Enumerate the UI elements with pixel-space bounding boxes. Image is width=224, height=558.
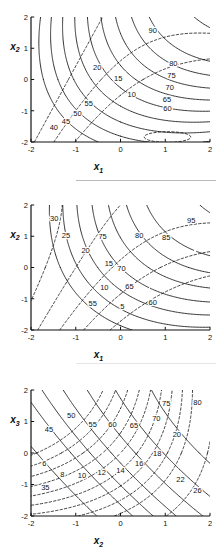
panel-2-xaxis-title: x1: [93, 349, 104, 362]
panel-1-objective-contours-label-0: 40: [50, 123, 58, 132]
panel-3-objective-contours-label-2: 50: [67, 411, 75, 420]
panel-3-yticklabel-1: -1: [21, 480, 28, 489]
panel-3-constraint-contours-label-6: 18: [153, 449, 161, 458]
panel-3-constraint-contours-level-18: [121, 453, 153, 486]
panel-1-plot-area: -2-1012-2-1012x1x24040454550505555606065…: [9, 13, 212, 174]
panel-3-xticklabel-0: -2: [28, 519, 35, 528]
panel-2-constraint-contours-level-20: [49, 269, 75, 312]
panel-2-xticklabel-2: 0: [118, 333, 122, 342]
panel-3-objective-contours-label-7: 75: [162, 399, 170, 408]
panel-3-yaxis-title: x3: [9, 414, 20, 427]
panel-2-constraint-contours-label-4: 25: [62, 231, 70, 240]
panel-2-objective-contours-label-7: 95: [187, 216, 195, 225]
panel-2-xticklabel-1: -1: [72, 333, 79, 342]
panel-2-yticklabel-3: 1: [24, 232, 28, 241]
panel-3-objective-contours-label-3: 55: [89, 420, 97, 429]
panel-2-svg: -2-1012-2-1012x1x25555606065657070757580…: [0, 185, 224, 370]
panel-3-yticklabel-4: 2: [24, 386, 28, 395]
panel-2-objective-contours-label-4: 75: [98, 232, 106, 241]
panel-2-xticklabel-3: 1: [163, 333, 167, 342]
panel-3-constraint-contours-label-0: 6: [42, 459, 46, 468]
panel-1-xaxis-title: x1: [93, 161, 104, 174]
panel-3-constraint-contours-label-2: 10: [78, 471, 86, 480]
panel-2-constraint-contours-label-0: 5: [120, 302, 124, 311]
panel-3-objective-contours-label-4: 60: [108, 420, 116, 429]
panel-2-xticklabel-0: -2: [28, 333, 35, 342]
panel-3-objective-contours-level-55: [121, 463, 177, 516]
panel-3-plot-area: -2-1012-2-1012x2x33535454550505555606065…: [9, 386, 212, 548]
panel-1-objective-contours-level-55: [75, 17, 92, 80]
panel-1-objective-contours-label-6: 70: [166, 83, 174, 92]
panel-1-constraint-contours-label-0: 10: [128, 90, 136, 99]
panel-1-objective-contours-level-55: [91, 80, 120, 107]
panel-1-objective-contours-label-1: 45: [62, 117, 70, 126]
panel-1-constraint-contours-level-15: [121, 33, 211, 61]
panel-2-xticklabel-4: 2: [208, 333, 212, 342]
panel-3-objective-contours-label-0: 35: [41, 483, 49, 492]
panel-1-objective-contours-label-8: 80: [169, 59, 177, 68]
panel-2-constraint-contours-level-25: [31, 268, 45, 301]
figure-sheet: -2-1012-2-1012x1x24040454550505555606065…: [0, 0, 224, 558]
panel-1-yticklabel-3: 1: [24, 44, 28, 53]
panel-1-yticklabel-2: 0: [24, 75, 28, 84]
panel-1-yticklabel-4: 2: [24, 13, 28, 22]
panel-3-constraint-contours-label-1: 8: [60, 470, 64, 479]
panel-2-objective-contours-label-0: 55: [89, 299, 97, 308]
panel-3-constraint-contours-label-7: 20: [173, 430, 181, 439]
panel-1-objective-contours-level-45: [51, 17, 58, 80]
panel-2-constraint-contours-label-5: 30: [50, 214, 58, 223]
panel-1-xticklabel-1: -1: [72, 145, 79, 154]
panel-3-constraint-contours-level-26: [208, 441, 211, 453]
panel-3-constraint-contours-level-12: [104, 433, 121, 452]
panel-3-objective-contours-label-6: 70: [152, 414, 160, 423]
panel-3-xticklabel-3: 1: [163, 519, 167, 528]
contour-panel-3: -2-1012-2-1012x2x33535454550505555606065…: [0, 370, 224, 558]
panel-1-objective-contours-level-80: [149, 17, 210, 61]
panel-2-objective-contours-label-6: 85: [162, 233, 170, 242]
panel-1-yticklabel-0: -2: [21, 138, 28, 147]
panel-1-xticklabel-4: 2: [208, 145, 212, 154]
panel-2-objective-contours-level-75: [108, 205, 120, 238]
panel-3-objective-contours-label-8: 80: [193, 398, 201, 407]
panel-3-xticklabel-1: -1: [72, 519, 79, 528]
panel-2-objective-contours-level-55: [121, 326, 133, 330]
panel-2-yticklabel-1: -1: [21, 295, 28, 304]
panel-2-objective-contours-label-1: 60: [149, 298, 157, 307]
panel-2-yticklabel-4: 2: [24, 201, 28, 210]
panel-2-objective-contours-level-65: [77, 205, 98, 268]
panel-3-objective-contours-level-60: [135, 453, 203, 516]
panel-1-objective-contours-level-70: [116, 17, 121, 33]
panel-3-xaxis-title: x2: [93, 535, 104, 548]
panel-3-constraint-contours-label-4: 14: [116, 466, 124, 475]
panel-1-objective-contours-label-7: 75: [167, 71, 175, 80]
panel-separator-2: [76, 363, 216, 364]
panel-2-objective-contours-label-3: 70: [117, 264, 125, 273]
panel-3-constraint-contours-level-20: [122, 453, 167, 499]
panel-2-constraint-contours-label-3: 20: [81, 246, 89, 255]
panel-3-constraint-contours-label-3: 12: [98, 468, 106, 477]
contour-panel-2: -2-1012-2-1012x1x25555606065657070757580…: [0, 185, 224, 370]
panel-2-yticklabel-0: -2: [21, 326, 28, 335]
panel-3-constraint-contours-level-10: [83, 409, 120, 453]
panel-3-constraint-contours-level-14: [31, 482, 79, 496]
panel-1-objective-contours-level-50: [121, 122, 211, 133]
panel-3-yticklabel-3: 1: [24, 417, 28, 426]
panel-3-constraint-contours-level-10: [31, 453, 83, 477]
panel-1-constraint-contours-label-2: 20: [93, 63, 101, 72]
panel-3-svg: -2-1012-2-1012x2x33535454550505555606065…: [0, 370, 224, 558]
panel-3-objective-contours-label-5: 65: [130, 421, 138, 430]
panel-2-objective-contours-level-80: [189, 268, 210, 273]
panel-1-svg: -2-1012-2-1012x1x24040454550505555606065…: [0, 0, 224, 185]
panel-3-objective-contours-level-35: [31, 446, 37, 453]
panel-1-objective-contours-level-40: [39, 17, 44, 80]
panel-1-xticklabel-2: 0: [118, 145, 122, 154]
panel-1-xticklabel-0: -2: [28, 145, 35, 154]
panel-3-constraint-contours-level-22: [181, 403, 192, 453]
panel-2-constraint-contours-label-2: 15: [105, 259, 113, 268]
panel-1-objective-contours-level-50: [63, 17, 74, 80]
panel-2-objective-contours-level-95: [200, 205, 210, 213]
panel-1-yticklabel-1: -1: [21, 107, 28, 116]
panel-2-yticklabel-2: 0: [24, 263, 28, 272]
panel-2-constraint-contours-level-5: [110, 321, 120, 330]
panel-1-objective-contours-label-4: 60: [163, 104, 171, 113]
